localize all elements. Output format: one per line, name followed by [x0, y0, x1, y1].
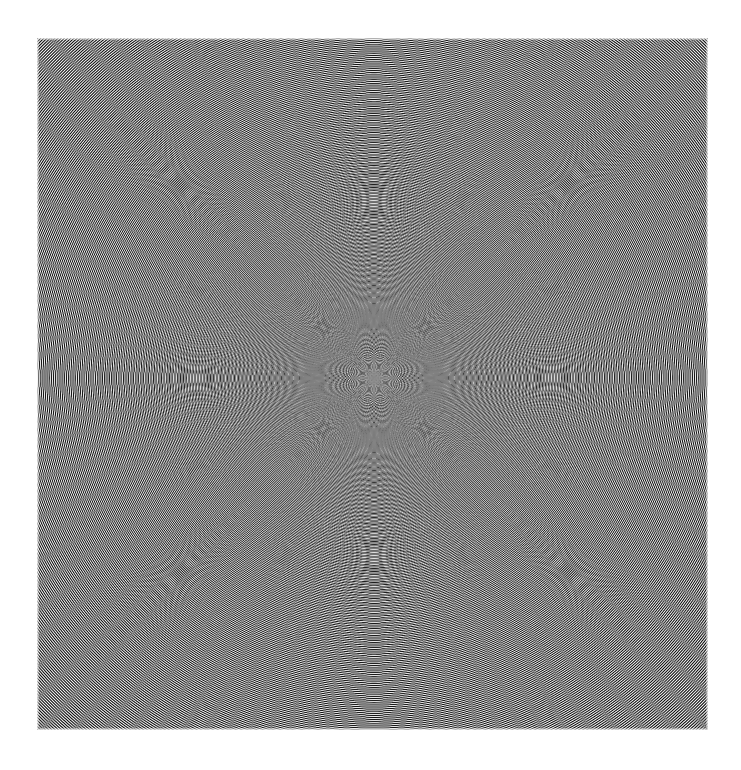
radial-moire-pattern [36, 37, 709, 731]
figure-root: Radial interference moire pattern [0, 0, 741, 770]
